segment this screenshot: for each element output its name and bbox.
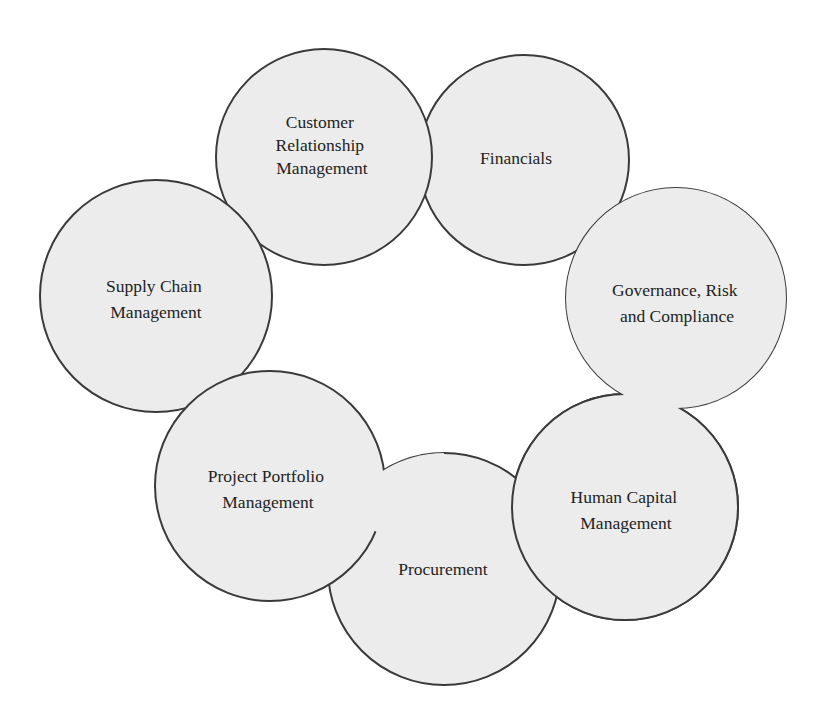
label-financials: Financials	[480, 148, 552, 168]
circle-ppm	[155, 371, 385, 601]
label-crm: Customer Relationship Management	[276, 112, 369, 178]
erp-modules-diagram: Customer Relationship Management Financi…	[0, 0, 817, 722]
label-procurement: Procurement	[398, 559, 488, 579]
